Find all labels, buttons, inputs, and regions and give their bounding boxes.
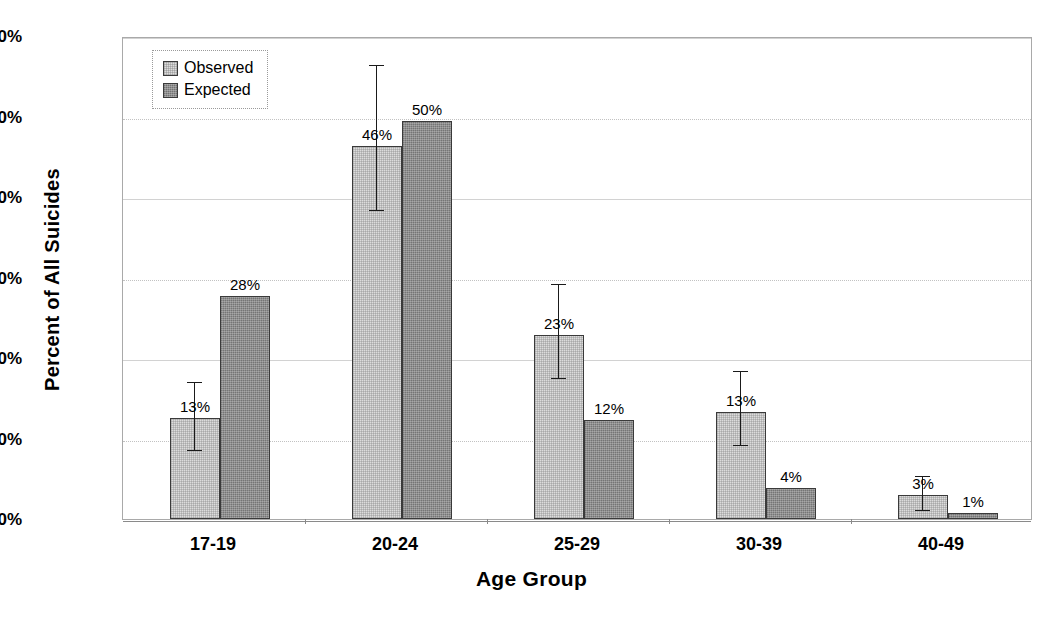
value-label-expected: 1% — [943, 493, 1003, 510]
value-label-observed: 46% — [347, 126, 407, 143]
bar-chart: Percent of All Suicides 0%10%20%30%40%50… — [0, 0, 1063, 633]
error-bar-cap — [187, 382, 202, 383]
x-axis-title: Age Group — [0, 567, 1063, 591]
bar-expected[interactable] — [402, 121, 452, 519]
gridline — [123, 521, 1031, 522]
legend-swatch-expected-icon — [163, 83, 178, 98]
bar-observed[interactable] — [716, 412, 766, 519]
legend-item-expected: Expected — [163, 79, 253, 101]
error-bar-observed — [558, 284, 559, 379]
x-axis-tick — [487, 519, 488, 524]
bar-observed[interactable] — [534, 335, 584, 519]
value-label-observed: 13% — [711, 392, 771, 409]
x-axis-tick — [669, 519, 670, 524]
bar-expected[interactable] — [220, 296, 270, 519]
bar-group: 13%4% — [716, 38, 816, 519]
x-axis-tick — [305, 519, 306, 524]
bar-expected[interactable] — [766, 488, 816, 519]
value-label-observed: 3% — [893, 475, 953, 492]
y-axis-tick-label: 40% — [0, 188, 22, 208]
legend-label-expected: Expected — [184, 81, 251, 99]
bar-group: 23%12% — [534, 38, 634, 519]
legend-label-observed: Observed — [184, 59, 253, 77]
value-label-observed: 23% — [529, 315, 589, 332]
x-axis-tick-label: 25-29 — [497, 534, 657, 555]
bar-observed[interactable] — [352, 146, 402, 519]
bar-group: 13%28% — [170, 38, 270, 519]
error-bar-cap — [733, 371, 748, 372]
value-label-expected: 28% — [215, 276, 275, 293]
x-axis-tick-label: 17-19 — [133, 534, 293, 555]
bar-expected[interactable] — [584, 420, 634, 519]
error-bar-cap — [369, 65, 384, 66]
value-label-expected: 4% — [761, 468, 821, 485]
x-axis-tick-label: 20-24 — [315, 534, 475, 555]
x-axis-tick — [851, 519, 852, 524]
y-axis-tick-label: 20% — [0, 349, 22, 369]
y-axis-tick-label: 60% — [0, 27, 22, 47]
error-bar-cap — [733, 445, 748, 446]
value-label-expected: 50% — [397, 101, 457, 118]
error-bar-cap — [369, 210, 384, 211]
error-bar-cap — [551, 378, 566, 379]
y-axis-tick-label: 10% — [0, 430, 22, 450]
legend-item-observed: Observed — [163, 57, 253, 79]
y-axis-tick-label: 0% — [0, 510, 22, 530]
x-axis-tick-label: 30-39 — [679, 534, 839, 555]
y-axis-tick-label: 50% — [0, 108, 22, 128]
legend-swatch-observed-icon — [163, 61, 178, 76]
y-axis-title: Percent of All Suicides — [41, 150, 64, 410]
x-axis-tick-label: 40-49 — [861, 534, 1021, 555]
error-bar-observed — [194, 382, 195, 451]
y-axis-tick-label: 30% — [0, 269, 22, 289]
bar-observed[interactable] — [170, 418, 220, 519]
bar-observed[interactable] — [898, 495, 948, 519]
chart-legend: Observed Expected — [152, 50, 268, 109]
error-bar-cap — [915, 510, 930, 511]
error-bar-cap — [187, 450, 202, 451]
error-bar-cap — [551, 284, 566, 285]
bar-group: 46%50% — [352, 38, 452, 519]
value-label-expected: 12% — [579, 400, 639, 417]
value-label-observed: 13% — [165, 398, 225, 415]
plot-area: 13%28%46%50%23%12%13%4%3%1% — [122, 37, 1032, 520]
bar-group: 3%1% — [898, 38, 998, 519]
bar-expected[interactable] — [948, 513, 998, 519]
